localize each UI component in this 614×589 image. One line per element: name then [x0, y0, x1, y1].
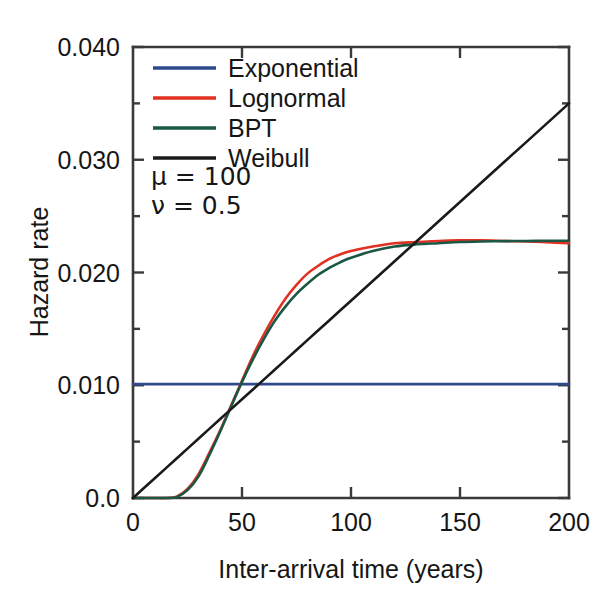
x-axis-title: Inter-arrival time (years) — [218, 555, 483, 583]
y-tick-label: 0.0 — [85, 484, 120, 512]
y-tick-label: 0.040 — [57, 33, 120, 61]
y-tick-label: 0.020 — [57, 259, 120, 287]
x-tick-label: 200 — [548, 508, 590, 536]
annotation-mu: μ = 100 — [151, 162, 251, 191]
y-axis-title: Hazard rate — [25, 207, 53, 338]
annotation-nu: ν = 0.5 — [151, 191, 242, 220]
y-tick-label: 0.010 — [57, 371, 120, 399]
legend-label-lognormal: Lognormal — [228, 84, 346, 112]
chart-canvas: 0.00.0100.0200.0300.040 050100150200 Int… — [0, 0, 614, 589]
hazard-rate-figure: 0.00.0100.0200.0300.040 050100150200 Int… — [0, 0, 614, 589]
parameter-annotations: μ = 100ν = 0.5 — [151, 162, 251, 220]
legend-label-exponential: Exponential — [228, 54, 359, 82]
legend-label-bpt: BPT — [228, 114, 277, 142]
x-tick-label: 0 — [126, 508, 140, 536]
y-tick-label: 0.030 — [57, 146, 120, 174]
x-tick-label: 50 — [228, 508, 256, 536]
x-tick-label: 100 — [330, 508, 372, 536]
x-tick-label: 150 — [439, 508, 481, 536]
